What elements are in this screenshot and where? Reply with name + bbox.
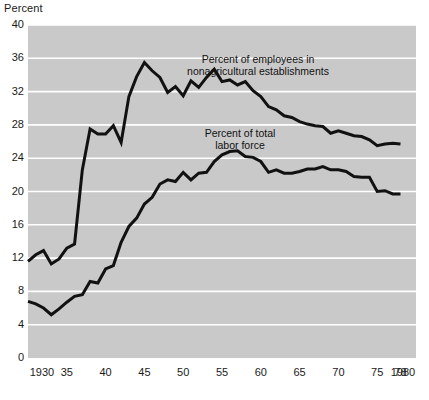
x-tick-label: 75 — [369, 366, 385, 378]
y-tick-label: 32 — [2, 85, 24, 97]
x-tick-label: 1980 — [388, 366, 418, 378]
y-tick-label: 36 — [2, 51, 24, 63]
x-tick-label: 35 — [59, 366, 75, 378]
x-tick-label: 55 — [214, 366, 230, 378]
y-tick-label: 8 — [2, 284, 24, 296]
y-tick-label: 28 — [2, 118, 24, 130]
x-tick-label: 1930 — [27, 366, 57, 378]
y-tick-label: 16 — [2, 218, 24, 230]
annotation-line: Percent of total — [205, 127, 276, 139]
y-tick-label: 0 — [2, 351, 24, 363]
annotation-line: labor force — [205, 139, 276, 151]
y-tick-label: 40 — [2, 18, 24, 30]
series-label-nonagricultural: Percent of employees innonagricultural e… — [187, 53, 329, 77]
x-tick-label: 40 — [98, 366, 114, 378]
chart-root: Percent 4036322824201612840 193035404550… — [0, 0, 429, 400]
y-tick-label: 24 — [2, 151, 24, 163]
series-label-total-labor-force: Percent of totallabor force — [205, 127, 276, 151]
y-tick-label: 20 — [2, 185, 24, 197]
y-tick-label: 4 — [2, 318, 24, 330]
x-tick-label: 45 — [136, 366, 152, 378]
x-tick-label: 50 — [175, 366, 191, 378]
annotation-line: nonagricultural establishments — [187, 65, 329, 77]
x-tick-label: 65 — [292, 366, 308, 378]
x-tick-label: 60 — [253, 366, 269, 378]
x-tick-label: 70 — [330, 366, 346, 378]
y-tick-label: 12 — [2, 251, 24, 263]
annotation-line: Percent of employees in — [187, 53, 329, 65]
